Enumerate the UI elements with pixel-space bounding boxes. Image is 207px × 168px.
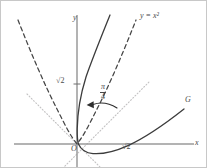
x-intercept-sqrt2-label: √2 <box>122 143 130 151</box>
rotated-curve-label-G: G <box>185 96 191 104</box>
angle-denominator: 4 <box>100 93 106 101</box>
solid-rotated-parabola-G <box>77 15 184 154</box>
dotted-line-y-equals-minus-x <box>27 94 129 168</box>
rotated-parabola-figure: y x O y = x² G √2 √2 π 4 <box>0 0 207 168</box>
rotation-angle-label-pi-over-4: π 4 <box>100 83 106 102</box>
rotation-angle-arrow <box>87 101 117 108</box>
origin-label: O <box>71 145 77 153</box>
angle-numerator: π <box>100 83 106 91</box>
x-axis-label: x <box>195 139 199 147</box>
y-intercept-sqrt2-label: √2 <box>56 77 64 85</box>
y-axis-label: y <box>73 14 77 22</box>
parabola-equation-label: y = x² <box>140 12 159 20</box>
dotted-guide-lines <box>27 82 149 168</box>
